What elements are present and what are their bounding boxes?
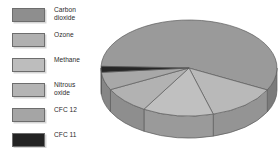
pie-chart-plot[interactable] — [100, 2, 278, 148]
legend-swatch-carbon-dioxide — [12, 8, 45, 22]
chart-legend: Carbon dioxide Ozone Methane Nitrous oxi… — [10, 8, 110, 144]
legend-item-cfc-12[interactable]: CFC 12 — [10, 108, 110, 130]
legend-item-carbon-dioxide[interactable]: Carbon dioxide — [10, 8, 110, 30]
legend-item-cfc-11[interactable]: CFC 11 — [10, 133, 110, 148]
legend-item-nitrous-oxide[interactable]: Nitrous oxide — [10, 83, 110, 105]
legend-item-ozone[interactable]: Ozone — [10, 33, 110, 55]
pie-3d-top — [101, 20, 277, 116]
legend-swatch-cfc-12 — [12, 108, 45, 122]
legend-swatch-ozone — [12, 33, 45, 47]
legend-swatch-nitrous-oxide — [12, 83, 45, 97]
legend-item-methane[interactable]: Methane — [10, 58, 110, 80]
pie-chart-svg — [100, 2, 278, 148]
pie-chart-figure: Carbon dioxide Ozone Methane Nitrous oxi… — [0, 0, 278, 148]
legend-swatch-methane — [12, 58, 45, 72]
legend-swatch-cfc-11 — [12, 133, 45, 147]
